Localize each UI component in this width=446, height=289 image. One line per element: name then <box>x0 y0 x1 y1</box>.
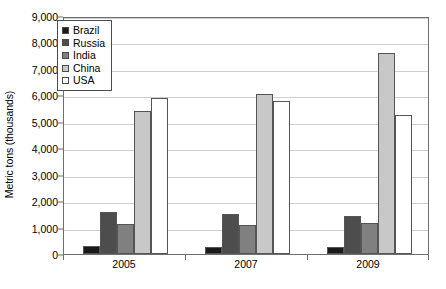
x-axis-tick-label: 2007 <box>234 258 257 270</box>
x-axis-tick-label: 2005 <box>112 258 135 270</box>
legend-item-label: USA <box>73 75 95 86</box>
bar-india-2005 <box>117 224 134 254</box>
plot-area <box>63 17 429 255</box>
legend-item-brazil: Brazil <box>62 24 105 37</box>
legend-swatch-icon <box>62 65 69 72</box>
bar-india-2007 <box>239 225 256 254</box>
legend-item-china: China <box>62 62 105 75</box>
legend-swatch-icon <box>62 27 69 34</box>
bar-usa-2005 <box>151 98 168 254</box>
bar-china-2009 <box>378 53 395 254</box>
bar-brazil-2009 <box>327 247 344 254</box>
x-axis-tick-labels: 200520072009 <box>63 258 429 278</box>
bars-layer <box>64 18 428 254</box>
x-axis-tick-label: 2009 <box>356 258 379 270</box>
bar-china-2005 <box>134 111 151 254</box>
bar-usa-2007 <box>273 101 290 254</box>
bar-russia-2005 <box>100 212 117 254</box>
legend-item-label: Russia <box>73 38 105 49</box>
bar-usa-2009 <box>395 115 412 254</box>
bar-india-2009 <box>361 223 378 254</box>
bar-china-2007 <box>256 94 273 254</box>
legend-item-russia: Russia <box>62 37 105 50</box>
legend-item-usa: USA <box>62 74 105 87</box>
legend-swatch-icon <box>62 39 69 46</box>
legend-swatch-icon <box>62 52 69 59</box>
bar-russia-2009 <box>344 216 361 254</box>
bar-russia-2007 <box>222 214 239 254</box>
bar-brazil-2005 <box>83 246 100 254</box>
chart-legend: BrazilRussiaIndiaChinaUSA <box>57 20 112 91</box>
legend-swatch-icon <box>62 77 69 84</box>
bar-chart: Metric tons (thousands) 01,0002,0003,000… <box>0 0 446 289</box>
bar-brazil-2007 <box>205 247 222 254</box>
legend-item-label: India <box>73 50 96 61</box>
legend-item-label: China <box>73 63 100 74</box>
legend-item-india: India <box>62 49 105 62</box>
legend-item-label: Brazil <box>73 25 99 36</box>
y-axis-tick-marks <box>0 17 63 255</box>
